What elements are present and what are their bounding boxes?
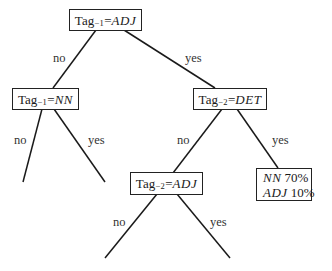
node-prefix: Tag [75,14,94,27]
node-equals: = [165,177,172,190]
node-value: ADJ [112,14,137,27]
edge-label-left-yes: yes [88,134,105,147]
node-leaf-distribution: NN 70% ADJ 10% [256,168,312,201]
edge-label-mid-yes: yes [210,216,227,229]
edge-label-right-no: no [177,134,190,147]
node-subscript: −2 [156,182,165,191]
edge-label-root-no: no [53,52,66,65]
node-prefix: Tag [199,93,218,106]
leaf-percent: 10% [291,185,315,200]
node-value: NN [55,93,73,106]
node-subscript: −1 [95,19,104,28]
leaf-percent: 70% [285,170,309,185]
node-left: Tag−1=NN [12,88,79,110]
leaf-tag: ADJ [263,185,288,200]
node-right: Tag−2=DET [193,88,267,110]
node-root: Tag−1=ADJ [69,9,142,31]
leaf-tag: NN [263,170,281,185]
edge-label-root-yes: yes [185,52,202,65]
leaf-row: NN 70% [263,170,308,185]
node-prefix: Tag [18,93,37,106]
edge-label-right-yes: yes [272,134,289,147]
node-equals: = [47,93,54,106]
node-value: ADJ [173,177,198,190]
node-mid: Tag−2=ADJ [130,172,203,195]
edge-label-left-no: no [14,134,27,147]
node-prefix: Tag [136,177,155,190]
node-subscript: −2 [218,98,227,107]
node-subscript: −1 [38,98,47,107]
node-equals: = [104,14,111,27]
leaf-row: ADJ 10% [263,185,315,200]
node-value: DET [235,93,261,106]
edge-label-mid-no: no [113,216,126,229]
